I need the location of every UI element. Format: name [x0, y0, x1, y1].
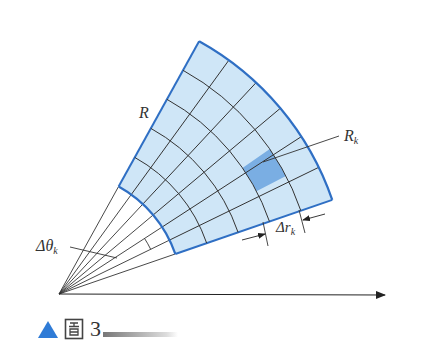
delta-r-base: Δr: [276, 219, 291, 235]
polar-axis-arrow: [59, 294, 385, 295]
figure-number: 3: [90, 316, 101, 342]
ray-line: [59, 254, 175, 294]
ray-line: [59, 194, 131, 294]
subregion-label-base: R: [344, 127, 354, 144]
delta-r-sub: k: [291, 226, 295, 237]
region-fill: [119, 41, 333, 254]
ray-line: [59, 227, 162, 294]
polar-region-diagram: [0, 0, 425, 352]
delta-theta-sub: k: [53, 245, 57, 256]
triangle-marker-icon: [38, 321, 58, 338]
delta-r-arrow-right: [303, 214, 325, 220]
delta-theta-arc: [145, 238, 151, 249]
delta-r-tick-right: [299, 210, 305, 233]
figure-char-icon: [64, 318, 84, 340]
region-label-R: R: [139, 105, 149, 121]
delta-theta-base: Δθ: [36, 237, 53, 254]
delta-r-arrow-left: [242, 234, 265, 240]
delta-r-label: Δrk: [276, 220, 295, 237]
subregion-label-Rk: Rk: [344, 128, 358, 146]
figure-caption: 3: [38, 318, 178, 340]
caption-underline: [103, 332, 178, 337]
delta-theta-label: Δθk: [36, 238, 58, 256]
subregion-label-sub: k: [354, 135, 358, 146]
